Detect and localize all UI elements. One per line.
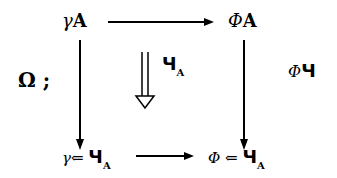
double-left-arrow-icon: ⇐ <box>225 149 238 167</box>
label-right: ΦЧ <box>288 62 316 80</box>
subscript-a: A <box>177 67 185 78</box>
node-bottom-right: Φ ⇐ ЧA <box>208 148 265 166</box>
label-omega: Ω ; <box>18 70 50 90</box>
gamma-symbol: γ <box>62 149 71 167</box>
che-symbol: Ч <box>162 53 177 74</box>
gamma-symbol: γ <box>62 10 73 31</box>
double-left-arrow-icon: ⇐ <box>71 149 84 167</box>
subscript-a: A <box>257 160 265 171</box>
label-center: ЧA <box>162 55 184 73</box>
node-bottom-left: γ⇐ ЧA <box>62 148 111 166</box>
phi-symbol: Φ <box>208 149 220 167</box>
bold-a: A <box>73 10 87 31</box>
subscript-a: A <box>103 160 111 171</box>
node-top-left: γA <box>62 12 87 30</box>
arrowhead-right-top <box>204 18 214 26</box>
che-symbol: Ч <box>301 60 316 81</box>
phi-symbol: Φ <box>288 62 301 81</box>
che-symbol: Ч <box>88 146 103 167</box>
node-top-right: ΦA <box>228 12 257 30</box>
arrows-layer <box>0 0 337 178</box>
bold-a: A <box>243 10 257 31</box>
phi-symbol: Φ <box>228 10 243 31</box>
che-symbol: Ч <box>242 146 257 167</box>
